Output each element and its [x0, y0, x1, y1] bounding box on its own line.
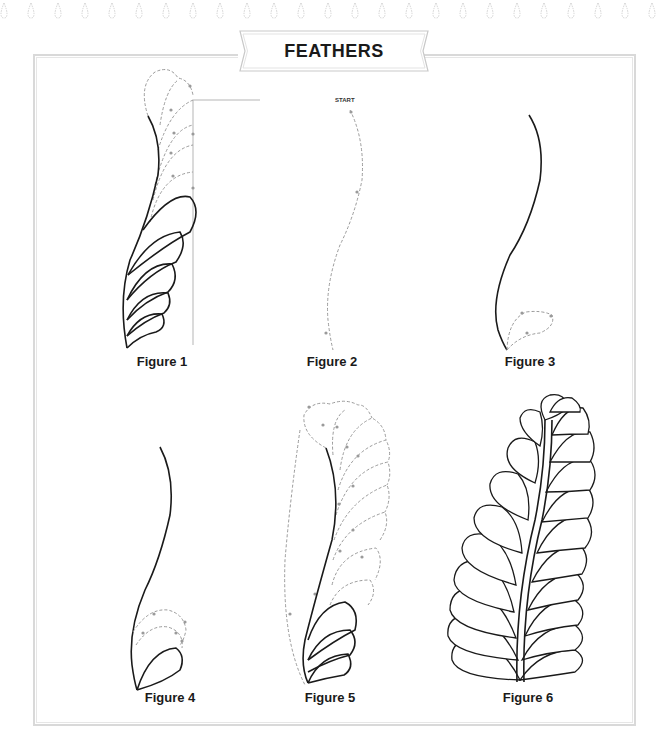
figure-4-caption: Figure 4	[110, 690, 230, 705]
figure-6-illustration	[435, 390, 635, 690]
figure-6-caption: Figure 6	[468, 690, 588, 705]
figure-2-caption: Figure 2	[272, 354, 392, 369]
droplet-border-decoration	[0, 0, 668, 22]
figure-5-illustration	[265, 395, 405, 695]
figure-5-caption: Figure 5	[270, 690, 390, 705]
figure-3-caption: Figure 3	[470, 354, 590, 369]
figure-2-illustration	[300, 100, 390, 355]
figure-4-illustration	[110, 440, 210, 695]
figure-1-caption: Figure 1	[102, 354, 222, 369]
figure-3-illustration	[480, 110, 590, 355]
figure-1-illustration	[100, 60, 270, 350]
